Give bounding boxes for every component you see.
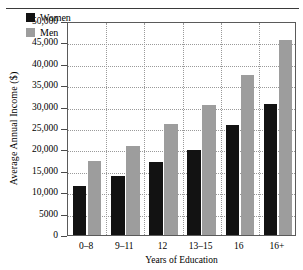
gridline-vertical <box>259 23 260 235</box>
gridline-horizontal <box>68 194 295 195</box>
legend-item-men: Men <box>26 25 71 40</box>
bar-men-16+ <box>279 40 293 235</box>
bar-women-911 <box>111 176 125 235</box>
x-axis-title: Years of Education <box>67 255 296 265</box>
bar-men-1315 <box>202 105 216 235</box>
figure-bar-chart: Average Annual Income ($) 50,00045,00040… <box>0 0 303 270</box>
y-axis-tick-label: 5000 <box>0 210 58 220</box>
bar-men-16 <box>241 75 255 236</box>
gridline-vertical <box>144 23 145 235</box>
bar-men-911 <box>126 146 140 235</box>
legend-swatch-men <box>26 28 35 37</box>
gridline-horizontal <box>68 130 295 131</box>
bar-women-1315 <box>187 150 201 235</box>
bar-women-08 <box>73 186 87 235</box>
bar-women-12 <box>149 162 163 235</box>
y-axis-tick-label: 10,000 <box>0 188 58 198</box>
page-rule-divider <box>6 8 299 9</box>
y-axis-tick-label: 15,000 <box>0 167 58 177</box>
gridline-horizontal <box>68 66 295 67</box>
gridline-vertical <box>106 23 107 235</box>
y-axis-tick-label: 25,000 <box>0 124 58 134</box>
gridline-horizontal <box>68 87 295 88</box>
chart-legend: WomenMen <box>26 10 71 40</box>
x-axis-tick-label: 16+ <box>247 241 303 251</box>
bar-women-16+ <box>264 104 278 235</box>
y-axis-tick <box>61 236 67 237</box>
bar-men-08 <box>88 161 102 235</box>
gridline-vertical <box>221 23 222 235</box>
gridline-vertical <box>183 23 184 235</box>
y-axis-tick-label: 20,000 <box>0 145 58 155</box>
y-axis-tick-label: 0 <box>0 231 58 241</box>
legend-item-label: Men <box>40 28 58 38</box>
y-axis-tick-label: 40,000 <box>0 60 58 70</box>
bar-women-16 <box>226 125 240 235</box>
gridline-horizontal <box>68 44 295 45</box>
plot-area <box>67 22 296 236</box>
bar-men-12 <box>164 124 178 235</box>
y-axis-tick-label: 35,000 <box>0 81 58 91</box>
gridline-horizontal <box>68 151 295 152</box>
legend-item-women: Women <box>26 10 71 25</box>
legend-swatch-women <box>26 13 35 22</box>
legend-item-label: Women <box>40 13 71 23</box>
y-axis-tick-label: 30,000 <box>0 103 58 113</box>
gridline-horizontal <box>68 173 295 174</box>
gridline-horizontal <box>68 216 295 217</box>
gridline-horizontal <box>68 109 295 110</box>
